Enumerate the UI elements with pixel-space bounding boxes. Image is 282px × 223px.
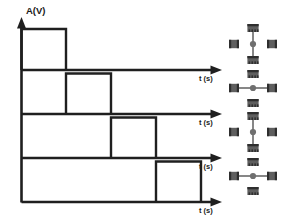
slot-4-node-left-icon (229, 172, 239, 180)
channel-3-pulse (111, 118, 156, 159)
timing-diagram-figure: A(V) t (s) t (s) t (s) (0, 0, 282, 223)
slot-4-node-top-icon (247, 158, 258, 166)
slot-3-node-left-icon (229, 128, 239, 136)
slot-2-node-right-icon (267, 84, 277, 92)
slot-1-node-right-icon (267, 40, 277, 48)
channel-2-pulse (66, 74, 111, 115)
waveform-channel-1: t (s) (22, 29, 223, 83)
slot-3-hub-icon (250, 129, 256, 135)
slot-4-hub-icon (250, 173, 256, 179)
slot-2-node-top-icon (247, 70, 258, 78)
slot-1-node-bottom-icon (247, 56, 258, 64)
star-network-slot-3 (229, 112, 277, 152)
slot-3-node-top-icon (247, 112, 258, 120)
vertical-axis-label: A(V) (26, 5, 46, 16)
waveform-channel-4: t (s) (22, 162, 223, 216)
slot-3-node-bottom-icon (247, 144, 258, 152)
waveform-channel-2: t (s) (22, 74, 223, 128)
slot-1-node-left-icon (229, 40, 239, 48)
channel-1-axis-label: t (s) (199, 74, 213, 83)
slot-1-node-top-icon (247, 24, 258, 32)
channel-2-axis-label: t (s) (199, 118, 213, 127)
star-network-slot-1 (229, 24, 277, 64)
star-network-slot-2 (229, 70, 277, 107)
slot-2-node-bottom-icon (247, 99, 258, 107)
slot-2-node-left-icon (229, 84, 239, 92)
timing-diagram-svg: A(V) t (s) t (s) t (s) (0, 0, 282, 223)
slot-4-node-bottom-icon (247, 187, 258, 195)
slot-4-node-right-icon (267, 172, 277, 180)
slot-2-hub-icon (250, 85, 256, 91)
star-network-slot-4 (229, 158, 277, 195)
slot-3-node-right-icon (267, 128, 277, 136)
slot-1-hub-icon (250, 41, 256, 47)
waveform-channel-3: t (s) (22, 118, 223, 172)
vertical-axis-arrowhead (17, 17, 26, 29)
channel-4-pulse (156, 162, 201, 203)
channel-1-pulse (22, 29, 67, 70)
channel-4-axis-label: t (s) (199, 206, 213, 215)
